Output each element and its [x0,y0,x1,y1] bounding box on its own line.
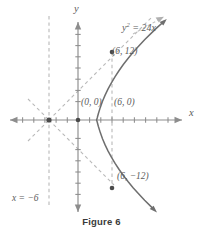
label-focus-6-0: (6, 0) [114,98,135,108]
label-point-6-12: (6, 12) [112,47,137,57]
y-axis-arrow-up [75,22,81,30]
helper-cross-upper-left [28,99,49,120]
equation-label: y2 = 24x [122,22,156,33]
y-axis-label: y [74,4,79,15]
axes-group [10,22,182,212]
label-directrix-x-equals-minus-6: x = −6 [12,194,39,204]
helper-cross-lower-left [28,120,49,141]
label-point-6-minus-12: (6, −12) [117,172,149,182]
x-axis-label: x [189,108,194,119]
equation-rest: = 24x [130,22,156,33]
parabola-figure: y2 = 24x (6, 12) (0, 0) (6, 0) (6, −12) … [0,0,203,236]
point-6-minus-12-marker [110,186,115,191]
x-axis-arrow-left [10,117,18,123]
vertex-point-marker [76,118,81,123]
figure-caption: Figure 6 [0,216,203,227]
tangent-line-lower [49,120,114,185]
x-axis-arrow-right [175,117,183,123]
focus-point-marker [46,117,51,122]
label-vertex-0-0: (0, 0) [81,98,102,108]
y-axis-arrow-down [75,205,81,213]
